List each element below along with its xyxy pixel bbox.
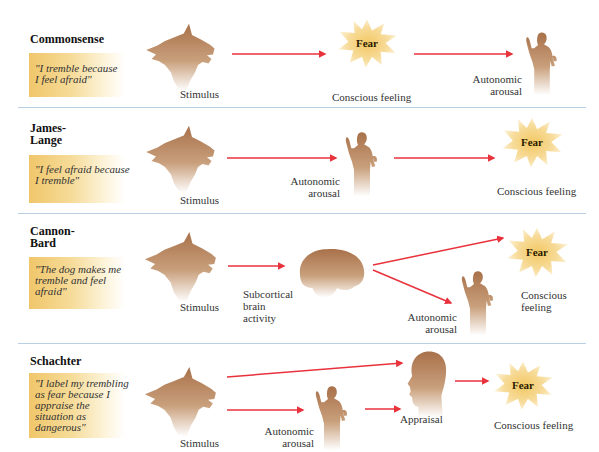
theory-title: Cannon- Bard xyxy=(30,225,75,249)
fear-label: Fear xyxy=(505,223,569,281)
autonomic-arousal-label: Autonomic arousal xyxy=(258,425,314,449)
theory-title: James- Lange xyxy=(30,122,66,146)
panel-schachter: Schachter "I label my trembling as fear … xyxy=(0,343,599,452)
fear-burst: Fear xyxy=(492,356,554,414)
panel-james-lange: James- Lange "I feel afraid because I tr… xyxy=(0,107,599,213)
quote-box: "I tremble because I feel afraid" xyxy=(29,53,125,97)
quote-box: "I feel afraid because I tremble" xyxy=(29,155,125,203)
theory-title: Commonsense xyxy=(30,33,104,45)
conscious-feeling-label: Conscious feeling xyxy=(332,91,411,103)
panel-commonsense: Commonsense "I tremble because I feel af… xyxy=(0,0,599,107)
wolf-head-icon xyxy=(135,20,225,95)
trembling-person-icon xyxy=(342,129,382,197)
fear-label: Fear xyxy=(500,113,564,171)
stimulus-label: Stimulus xyxy=(180,437,219,449)
wolf-head-icon xyxy=(135,228,225,306)
trembling-person-icon xyxy=(312,383,352,451)
autonomic-arousal-label: Autonomic arousal xyxy=(405,311,457,335)
fear-label: Fear xyxy=(492,356,554,414)
conscious-feeling-label: Conscious feeling xyxy=(521,289,567,313)
subcortical-label: Subcortical brain activity xyxy=(243,288,293,324)
autonomic-arousal-label: Autonomic arousal xyxy=(288,175,340,199)
trembling-person-icon xyxy=(522,30,562,95)
fear-label: Fear xyxy=(336,14,398,72)
stimulus-label: Stimulus xyxy=(180,194,219,206)
conscious-feeling-label: Conscious feeling xyxy=(497,185,576,197)
fear-burst: Fear xyxy=(500,113,564,171)
quote-text: "I tremble because I feel afraid" xyxy=(35,63,145,85)
brain-icon xyxy=(292,243,370,305)
stimulus-label: Stimulus xyxy=(180,88,219,100)
theory-title: Schachter xyxy=(30,355,81,367)
quote-text: "I label my trembling as fear because I … xyxy=(35,378,145,433)
head-profile-icon xyxy=(403,348,449,418)
quote-box: "I label my trembling as fear because I … xyxy=(29,373,125,438)
stimulus-label: Stimulus xyxy=(180,301,219,313)
wolf-head-icon xyxy=(135,122,225,197)
trembling-person-icon xyxy=(458,268,498,336)
quote-box: "The dog makes me tremble and feel afrai… xyxy=(29,257,125,309)
autonomic-arousal-label: Autonomic arousal xyxy=(470,73,522,97)
fear-burst: Fear xyxy=(336,14,398,72)
quote-text: "I feel afraid because I tremble" xyxy=(35,164,145,186)
quote-text: "The dog makes me tremble and feel afrai… xyxy=(35,264,145,297)
conscious-feeling-label: Conscious feeling xyxy=(494,419,573,431)
appraisal-label: Appraisal xyxy=(400,413,443,425)
wolf-head-icon xyxy=(135,363,225,441)
fear-burst: Fear xyxy=(505,223,569,281)
panel-cannon-bard: Cannon- Bard "The dog makes me tremble a… xyxy=(0,213,599,343)
